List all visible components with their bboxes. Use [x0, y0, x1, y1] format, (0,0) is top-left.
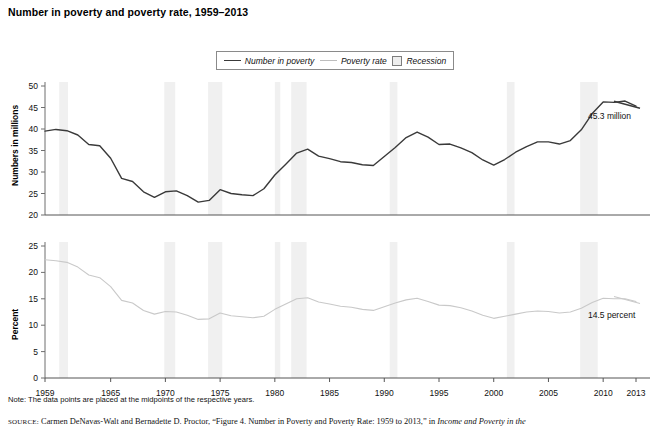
line-swatch-light-icon: [320, 60, 337, 61]
recession-band: [275, 82, 280, 215]
legend-item-poverty-rate: Poverty rate: [320, 56, 387, 66]
x-axis-tick-label: 1980: [265, 388, 284, 398]
y-axis-tick-label: 10: [29, 320, 39, 330]
annotation-leader: [614, 296, 640, 303]
y-axis-tick-label: 45: [29, 103, 39, 113]
recession-band: [164, 242, 175, 378]
chart-legend: Number in poverty Poverty rate Recession: [216, 51, 454, 70]
x-axis-tick-label: 1995: [430, 388, 449, 398]
chart-note: Note: The data points are placed at the …: [8, 395, 254, 404]
page-title: Number in poverty and poverty rate, 1959…: [8, 6, 248, 18]
y-axis-tick-label: 5: [33, 347, 38, 357]
x-axis-tick-label: 1990: [375, 388, 394, 398]
x-axis-tick-label: 2013: [627, 388, 646, 398]
recession-band: [507, 242, 515, 378]
source-prefix: SOURCE:: [8, 418, 39, 426]
recession-band: [208, 242, 222, 378]
y-axis-tick-label: 20: [29, 210, 39, 220]
annotation-number-in-poverty: 45.3 million: [588, 111, 631, 121]
y-axis-tick-label: 35: [29, 146, 39, 156]
recession-band: [59, 82, 68, 215]
source-body: Carmen DeNavas-Walt and Bernadette D. Pr…: [41, 417, 435, 426]
chart-poverty-rate: 0510152025: [0, 238, 658, 386]
y-axis-tick-label: 15: [29, 294, 39, 304]
source-italic: Income and Poverty in the: [437, 417, 525, 426]
x-axis-tick-label: 1985: [320, 388, 339, 398]
y-axis-tick-label: 25: [29, 189, 39, 199]
y-axis-tick-label: 20: [29, 267, 39, 277]
y-axis-tick-label: 40: [29, 124, 39, 134]
recession-band: [275, 242, 280, 378]
x-axis-tick-label: 2000: [484, 388, 503, 398]
legend-item-recession: Recession: [392, 56, 446, 66]
y-axis-tick-label: 25: [29, 241, 39, 251]
y-axis-tick-label: 30: [29, 167, 39, 177]
annotation-poverty-rate: 14.5 percent: [588, 310, 635, 320]
x-axis-tick-label: 2005: [539, 388, 558, 398]
data-series-line: [45, 260, 636, 320]
box-swatch-icon: [392, 56, 402, 66]
data-series-line: [45, 101, 636, 202]
recession-band: [291, 82, 306, 215]
y-axis-tick-label: 0: [33, 373, 38, 383]
chart-number-in-poverty: 20253035404550: [0, 78, 658, 222]
y-axis-tick-label: 50: [29, 81, 39, 91]
line-swatch-icon: [224, 60, 241, 61]
legend-label: Recession: [406, 56, 446, 66]
chart-source: SOURCE: Carmen DeNavas-Walt and Bernadet…: [8, 417, 526, 426]
legend-item-number-in-poverty: Number in poverty: [224, 56, 314, 66]
legend-label: Number in poverty: [245, 56, 314, 66]
x-axis-tick-label: 2010: [594, 388, 613, 398]
recession-band: [291, 242, 306, 378]
recession-band: [507, 82, 515, 215]
recession-band: [390, 242, 398, 378]
recession-band: [580, 82, 598, 215]
recession-band: [164, 82, 175, 215]
legend-label: Poverty rate: [341, 56, 387, 66]
